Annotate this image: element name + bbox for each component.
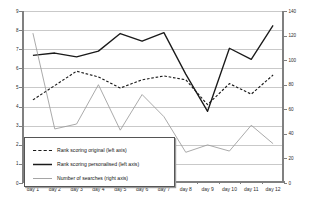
left-axis-tick-label: 7 <box>16 47 19 52</box>
right-axis-tick <box>284 11 287 12</box>
x-axis-tick-label: day 7 <box>158 187 170 192</box>
legend-item-number-of-searches: Number of searches (right axis) <box>25 171 174 185</box>
series-line-2 <box>33 33 273 152</box>
legend-label: Number of searches (right axis) <box>57 175 128 181</box>
x-axis-tick-label: day 10 <box>222 187 237 192</box>
x-axis-tick-label: day 5 <box>114 187 126 192</box>
chart-legend: Rank scoring original (left axis) Rank s… <box>24 137 175 187</box>
left-axis-tick-label: 5 <box>16 85 19 90</box>
left-axis-tick-label: 1 <box>16 161 19 166</box>
x-axis-tick-label: day 3 <box>70 187 82 192</box>
right-axis-tick <box>284 60 287 61</box>
thin-line-icon <box>33 175 52 182</box>
legend-item-rank-scoring-original: Rank scoring original (left axis) <box>25 143 174 157</box>
right-axis-tick-label: 60 <box>289 107 294 112</box>
x-axis-tick-label: day 1 <box>27 187 39 192</box>
left-axis-tick-label: 2 <box>16 142 19 147</box>
dashed-line-icon <box>33 147 52 154</box>
left-axis-tick-label: 6 <box>16 66 19 71</box>
right-axis-tick-label: 120 <box>289 33 297 38</box>
legend-label: Rank scoring original (left axis) <box>57 147 127 153</box>
legend-label: Rank scoring personalised (left axis) <box>57 161 139 167</box>
right-axis-tick-label: 140 <box>289 9 297 14</box>
left-axis-tick-label: 9 <box>16 9 19 14</box>
x-axis-tick-label: day 2 <box>49 187 61 192</box>
series-line-1 <box>33 25 273 111</box>
right-axis-tick-label: 20 <box>289 156 294 161</box>
chart-container: 0123456789 020406080100120140 day 1day 2… <box>0 0 313 211</box>
solid-line-icon <box>33 161 52 168</box>
left-axis-tick-label: 0 <box>16 181 19 186</box>
x-axis-tick-label: day 11 <box>244 187 259 192</box>
right-axis-tick-label: 100 <box>289 58 297 63</box>
right-axis-tick-label: 40 <box>289 131 294 136</box>
x-axis-tick-label: day 6 <box>136 187 148 192</box>
left-axis-tick-label: 8 <box>16 28 19 33</box>
x-axis-tick <box>284 181 285 184</box>
x-axis-tick-label: day 4 <box>92 187 104 192</box>
x-axis-tick-label: day 9 <box>201 187 213 192</box>
left-axis-tick-label: 4 <box>16 104 19 109</box>
right-axis-tick-label: 0 <box>289 181 292 186</box>
right-axis-tick <box>284 134 287 135</box>
right-axis-tick <box>284 36 287 37</box>
right-axis-tick <box>284 85 287 86</box>
right-axis-tick-label: 80 <box>289 82 294 87</box>
x-axis-tick-label: day 12 <box>266 187 281 192</box>
x-axis-tick-label: day 8 <box>180 187 192 192</box>
right-axis-tick <box>284 109 287 110</box>
legend-item-rank-scoring-personalised: Rank scoring personalised (left axis) <box>25 157 174 171</box>
left-axis-tick-label: 3 <box>16 123 19 128</box>
right-axis-tick <box>284 158 287 159</box>
series-line-0 <box>33 71 273 104</box>
